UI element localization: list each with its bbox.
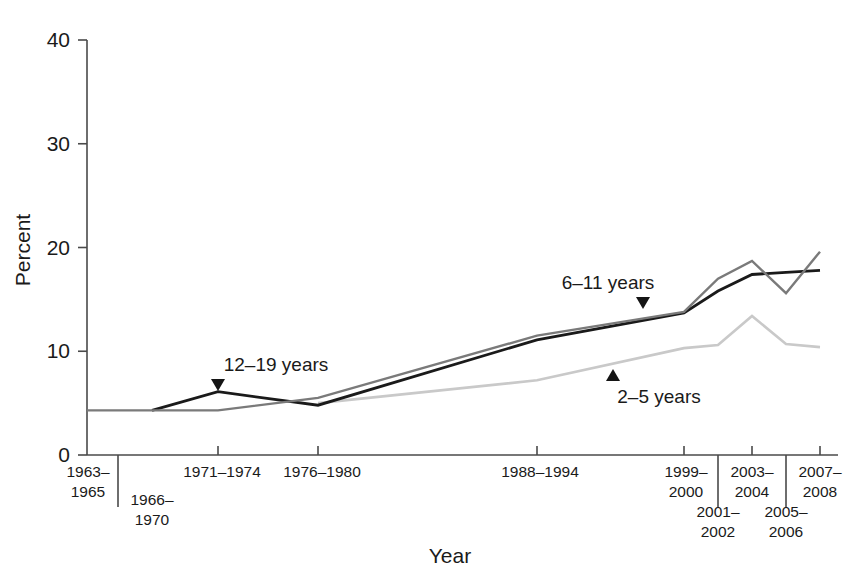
x-axis-title: Year (429, 544, 471, 567)
series-label-2-5-years: 2–5 years (617, 386, 700, 407)
chart-container: 40 30 20 10 0 Percent 1963– 1965 1966– 1… (0, 0, 863, 581)
x-tick-label-2005-2006-line2: 2006 (769, 523, 803, 540)
x-tick-label-1999-2000-line2: 2000 (669, 483, 704, 500)
x-tick-label-2001-2002-line2: 2002 (701, 523, 735, 540)
x-tick-label-1966-1970-line1: 1966– (130, 491, 173, 508)
x-tick-label-2007-2008-line2: 2008 (803, 483, 837, 500)
x-tick-label-2007-2008-line1: 2007– (798, 463, 841, 480)
x-tick-label-2003-2004-line1: 2003– (730, 463, 773, 480)
series-line-12-19-years (87, 252, 820, 411)
series-label-6-11-years: 6–11 years (562, 272, 655, 293)
y-tick-label-30: 30 (47, 132, 70, 155)
marker-triangle-down-12-19 (211, 379, 225, 391)
x-tick-label-1971-1974: 1971–1974 (183, 463, 261, 480)
x-axis-ticks (218, 446, 820, 455)
x-tick-label-1966-1970-line2: 1970 (135, 511, 170, 528)
series-label-12-19-years: 12–19 years (224, 354, 329, 375)
y-axis-ticks (78, 40, 87, 455)
x-tick-label-1988-1994: 1988–1994 (501, 463, 579, 480)
y-tick-label-20: 20 (47, 236, 70, 259)
marker-triangle-up-2-5 (606, 369, 620, 381)
annotation-group: 12–19 years 6–11 years 2–5 years (211, 272, 701, 407)
y-tick-label-10: 10 (47, 339, 70, 362)
x-tick-label-1976-1980: 1976–1980 (283, 463, 361, 480)
data-series-group (87, 252, 820, 411)
line-chart-figure: 40 30 20 10 0 Percent 1963– 1965 1966– 1… (0, 0, 863, 581)
x-tick-label-2003-2004-line2: 2004 (735, 483, 770, 500)
x-tick-label-1963-1965-line1: 1963– (66, 463, 109, 480)
y-axis-title: Percent (11, 214, 34, 287)
y-tick-label-40: 40 (47, 28, 70, 51)
x-tick-label-2005-2006-line1: 2005– (764, 503, 807, 520)
marker-triangle-down-6-11 (636, 297, 650, 309)
x-tick-label-2001-2002-line1: 2001– (696, 503, 739, 520)
x-tick-label-1963-1965-line2: 1965 (71, 483, 105, 500)
x-tick-label-1999-2000-line1: 1999– (664, 463, 707, 480)
series-line-2-5-years (318, 316, 820, 403)
series-line-6-11-years (152, 270, 820, 410)
